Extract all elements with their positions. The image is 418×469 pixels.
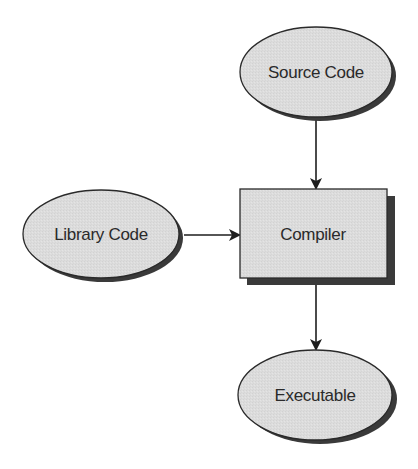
compilation-diagram: Source Code Library Code Compiler Execut… xyxy=(0,0,418,469)
node-source-code-label: Source Code xyxy=(268,63,364,82)
node-library-code-label: Library Code xyxy=(54,225,148,244)
node-compiler-label: Compiler xyxy=(280,225,346,244)
node-library-code: Library Code xyxy=(23,190,183,282)
node-executable: Executable xyxy=(238,350,397,444)
node-executable-label: Executable xyxy=(274,386,355,405)
node-compiler: Compiler xyxy=(240,189,395,285)
node-source-code: Source Code xyxy=(240,27,396,121)
